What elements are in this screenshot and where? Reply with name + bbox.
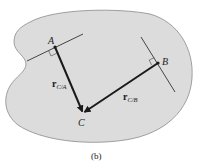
- figure-caption: (b): [91, 151, 102, 161]
- label-b: B: [162, 56, 168, 67]
- rigid-body-diagram: A B C rC/A rC/B (b): [0, 0, 198, 163]
- label-c: C: [78, 117, 85, 128]
- rigid-body-shape: [6, 10, 192, 142]
- point-b: [156, 61, 159, 64]
- label-a: A: [47, 35, 55, 46]
